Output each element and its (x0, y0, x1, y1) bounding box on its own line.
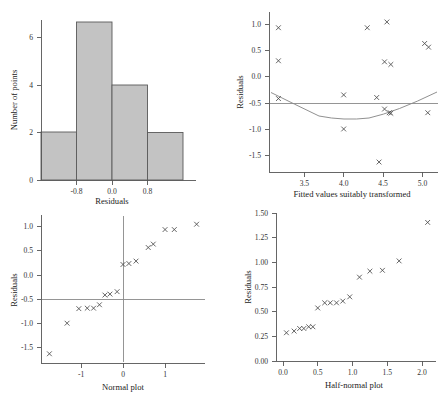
scatter-point-marker (134, 259, 139, 264)
residual-diagnostics-figure: 0 2 4 6 -0.8 0.0 0.8 Residuals Number of… (0, 0, 447, 410)
halfnormal-ytick-label: 0.25 (255, 332, 268, 341)
residual-xtick-label: 3.5 (300, 179, 310, 188)
halfnormal-xtick-label: 1.5 (383, 368, 393, 377)
normal-x-ticks: -1 0 1 (78, 363, 167, 379)
scatter-point-marker (425, 110, 430, 115)
residual-y-ticks: 1.0 0.5 0.0 -0.5 -1.0 -1.5 (249, 20, 269, 160)
scatter-point-marker (382, 107, 387, 112)
scatter-point-marker (382, 59, 387, 64)
scatter-point-marker (310, 324, 315, 329)
histogram-bar (41, 132, 77, 180)
normal-ytick-label: -1.5 (21, 343, 33, 352)
halfnormal-points-group (284, 220, 430, 335)
normal-ytick-label: 0.5 (24, 246, 34, 255)
scatter-point-marker (357, 275, 362, 280)
scatter-point-marker (385, 20, 390, 25)
histogram-x-axis-title: Residuals (95, 196, 129, 205)
scatter-point-marker (388, 62, 393, 67)
scatter-point-marker (397, 259, 402, 264)
scatter-point-marker (426, 45, 431, 50)
normal-ytick-label: 0.0 (24, 271, 34, 280)
normal-ytick-label: -1.0 (21, 319, 33, 328)
histogram-xtick-label: 0.8 (143, 187, 153, 196)
halfnormal-ytick-label: 0.75 (255, 283, 268, 292)
histogram-y-ticks: 0 2 4 6 (29, 33, 41, 185)
histogram-xtick-label: -0.8 (70, 187, 82, 196)
scatter-point-marker (334, 300, 339, 305)
scatter-point-marker (276, 58, 281, 63)
scatter-point-marker (276, 25, 281, 30)
halfnormal-y-axis-title: Residuals (243, 270, 253, 304)
scatter-point-marker (347, 294, 352, 299)
halfnormal-axes (276, 213, 436, 361)
scatter-point-marker (365, 25, 370, 30)
residual-xtick-label: 4.0 (339, 179, 349, 188)
scatter-point-marker (368, 269, 373, 274)
halfnormal-y-ticks: 0.00 0.25 0.50 0.75 1.00 1.25 1.50 (255, 209, 276, 366)
panel-residuals-vs-fitted: 1.0 0.5 0.0 -0.5 -1.0 -1.5 3.5 4.0 4.5 5… (224, 0, 447, 205)
scatter-point-marker (103, 293, 108, 298)
residual-ytick-label: 0.5 (252, 46, 262, 55)
histogram-bar (148, 133, 184, 181)
scatter-point-marker (108, 292, 113, 297)
residuals-vs-fitted-svg: 1.0 0.5 0.0 -0.5 -1.0 -1.5 3.5 4.0 4.5 5… (224, 0, 447, 205)
residual-points-group (276, 20, 431, 165)
histogram-bar (77, 22, 113, 180)
halfnormal-x-ticks: 0.0 0.5 1.0 1.5 2.0 (278, 361, 427, 377)
halfnormal-ytick-label: 0.00 (255, 357, 268, 366)
scatter-point-marker (97, 302, 102, 307)
histogram-ytick-label: 6 (29, 33, 33, 42)
halfnormal-ytick-label: 1.50 (255, 209, 268, 218)
halfnormal-ytick-label: 0.50 (255, 307, 268, 316)
residual-ytick-label: 0.0 (252, 72, 262, 81)
scatter-point-marker (76, 306, 81, 311)
normal-y-axis-title: Residuals (9, 273, 19, 307)
scatter-point-marker (341, 127, 346, 132)
scatter-point-marker (322, 300, 327, 305)
scatter-point-marker (341, 92, 346, 97)
normal-xtick-label: 0 (121, 370, 125, 379)
scatter-point-marker (425, 220, 430, 225)
scatter-point-marker (65, 321, 70, 326)
residual-y-axis-title: Residuals (235, 75, 245, 109)
halfnormal-xtick-label: 0.5 (313, 368, 323, 377)
normal-xtick-label: -1 (78, 370, 85, 379)
scatter-point-marker (151, 242, 156, 247)
residual-ytick-label: 1.0 (252, 20, 262, 29)
histogram-ytick-label: 0 (29, 176, 33, 185)
half-normal-plot-svg: 0.00 0.25 0.50 0.75 1.00 1.25 1.50 0.0 0… (224, 205, 447, 410)
histogram-ytick-label: 2 (29, 128, 33, 137)
panel-half-normal-plot: 0.00 0.25 0.50 0.75 1.00 1.25 1.50 0.0 0… (224, 205, 447, 410)
residual-x-axis-title: Fitted values suitably transformed (293, 189, 411, 199)
scatter-point-marker (301, 326, 306, 331)
histogram-xtick-label: 0.0 (107, 187, 117, 196)
scatter-point-marker (306, 324, 311, 329)
scatter-point-marker (91, 306, 96, 311)
residual-ytick-label: -1.5 (249, 151, 261, 160)
histogram-y-axis-title: Number of points (9, 69, 19, 130)
histogram-ytick-label: 4 (29, 81, 33, 90)
scatter-point-marker (146, 245, 151, 250)
histogram-x-ticks: -0.8 0.0 0.8 (70, 180, 152, 196)
halfnormal-x-axis-title: Half-normal plot (325, 380, 384, 390)
scatter-point-marker (276, 96, 281, 101)
residual-ytick-label: -1.0 (249, 125, 261, 134)
scatter-point-marker (115, 289, 120, 294)
halfnormal-xtick-label: 1.0 (348, 368, 358, 377)
scatter-point-marker (340, 299, 345, 304)
halfnormal-xtick-label: 2.0 (417, 368, 427, 377)
scatter-point-marker (194, 222, 199, 227)
residual-axes (269, 12, 438, 172)
residual-xtick-label: 4.5 (378, 179, 388, 188)
scatter-point-marker (328, 300, 333, 305)
normal-x-axis-title: Normal plot (102, 382, 144, 392)
halfnormal-xtick-label: 0.0 (278, 368, 288, 377)
scatter-point-marker (284, 330, 289, 335)
panel-histogram: 0 2 4 6 -0.8 0.0 0.8 Residuals Number of… (0, 0, 223, 205)
halfnormal-ytick-label: 1.00 (255, 258, 268, 267)
residual-smooth-curve (271, 92, 437, 119)
normal-ytick-label: 1.0 (24, 222, 34, 231)
halfnormal-ytick-label: 1.25 (255, 233, 268, 242)
scatter-point-marker (380, 268, 385, 273)
panel-normal-plot: 1.0 0.5 0.0 -0.5 -1.0 -1.5 -1 0 1 Normal… (0, 205, 223, 410)
